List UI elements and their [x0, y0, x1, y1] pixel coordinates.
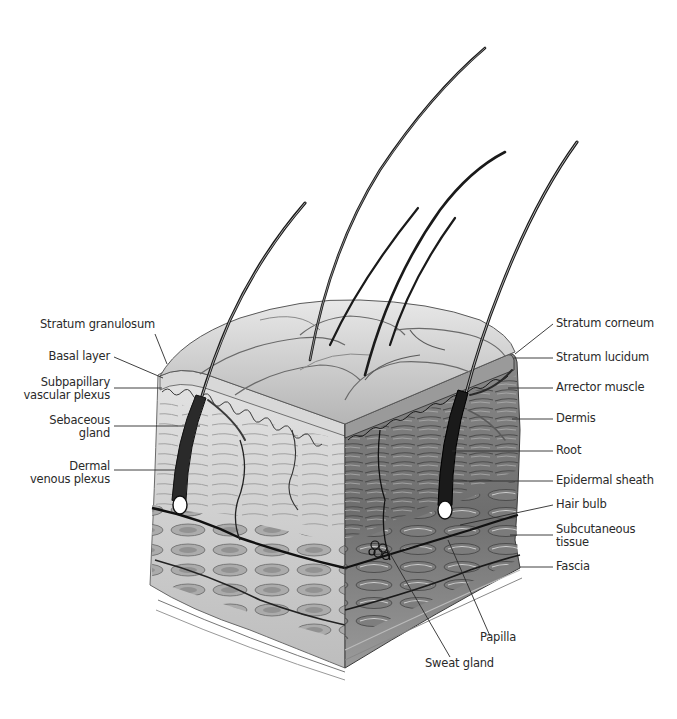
label-stratum-corneum: Stratum corneum [556, 317, 654, 330]
label-basal-layer: Basal layer [49, 350, 110, 363]
label-dermal-venous-plexus: Dermal venous plexus [30, 460, 110, 486]
label-text: vascular plexus [23, 389, 110, 402]
label-text: Stratum lucidum [556, 350, 649, 364]
label-stratum-lucidum: Stratum lucidum [556, 351, 649, 364]
label-dermis: Dermis [556, 412, 596, 425]
label-text: Hair bulb [556, 497, 607, 511]
label-sebaceous-gland: Sebaceous gland [49, 414, 110, 440]
label-papilla: Papilla [480, 631, 516, 644]
label-text: Stratum corneum [556, 316, 654, 330]
label-fascia: Fascia [556, 560, 590, 573]
label-text: Sweat gland [425, 656, 494, 670]
label-stratum-granulosum: Stratum granulosum [40, 318, 155, 331]
label-sweat-gland: Sweat gland [425, 657, 494, 670]
label-hair-bulb: Hair bulb [556, 498, 607, 511]
label-text: Root [556, 443, 581, 457]
left-face [150, 369, 345, 680]
label-text: Fascia [556, 559, 590, 573]
label-text: Arrector muscle [556, 380, 644, 394]
label-arrector-muscle: Arrector muscle [556, 381, 644, 394]
label-text: venous plexus [30, 473, 110, 486]
label-subpapillary-vascular-plexus: Subpapillary vascular plexus [23, 376, 110, 402]
label-text: Stratum granulosum [40, 317, 155, 331]
label-text: tissue [556, 536, 635, 549]
label-text: Epidermal sheath [556, 473, 654, 487]
label-root: Root [556, 444, 581, 457]
label-text: Basal layer [49, 349, 110, 363]
label-subcutaneous-tissue: Subcutaneous tissue [556, 523, 635, 549]
label-text: Dermis [556, 411, 596, 425]
label-text: Papilla [480, 630, 516, 644]
label-epidermal-sheath: Epidermal sheath [556, 474, 654, 487]
label-text: gland [49, 427, 110, 440]
